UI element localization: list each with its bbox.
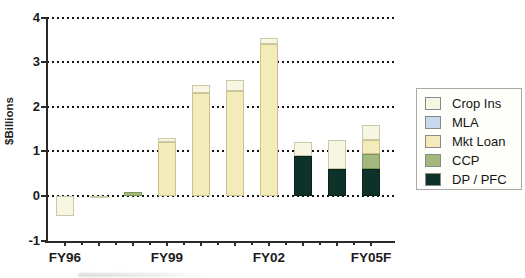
legend-swatch-ccp [425,154,441,167]
bar-FY96-crop_ins[interactable] [56,196,74,216]
legend-row-mla: MLA [425,113,521,132]
x-minor-tick [217,243,219,245]
legend-label-mla: MLA [452,115,479,130]
gridline-y3 [47,61,394,63]
legend-swatch-crop_ins [425,97,441,110]
gridline-y2 [47,106,394,108]
bar-FY04-crop_ins[interactable] [328,140,346,169]
bar-FY01-crop_ins[interactable] [226,80,244,91]
x-tick-FY02 [268,241,270,246]
legend-swatch-dp_pfc [425,173,441,186]
x-minor-tick [81,243,83,245]
x-tick-FY04 [336,241,338,246]
x-minor-tick [115,243,117,245]
y-axis-title: $Billions [3,66,15,176]
legend-swatch-mkt_loan [425,135,441,148]
legend-row-ccp: CCP [425,151,521,170]
x-tick-FY01 [234,241,236,246]
bar-FY03-crop_ins[interactable] [294,142,312,155]
legend-label-mkt_loan: Mkt Loan [452,134,505,149]
bar-FY98-ccp[interactable] [124,192,142,196]
bar-FY05F-ccp[interactable] [362,154,380,170]
legend-label-crop_ins: Crop Ins [452,96,501,111]
x-tick-FY03 [302,241,304,246]
x-tick-FY05F [370,241,372,246]
bar-FY05F-mkt_loan[interactable] [362,140,380,153]
x-minor-tick [319,243,321,245]
x-tick-FY96 [64,241,66,246]
bar-FY04-dp_pfc[interactable] [328,169,346,196]
legend-row-mkt_loan: Mkt Loan [425,132,521,151]
bar-FY99-mkt_loan[interactable] [158,142,176,196]
bar-FY99-crop_ins[interactable] [158,138,176,142]
x-tick-FY00 [200,241,202,246]
legend-row-dp_pfc: DP / PFC [425,170,521,189]
x-label-FY99: FY99 [143,250,191,265]
cropped-caption-smudge [78,273,208,277]
y-axis-line [46,18,48,243]
gridline-y4 [47,17,394,19]
bar-FY00-mkt_loan[interactable] [192,93,210,196]
legend-row-crop_ins: Crop Ins [425,94,521,113]
y-tick-label-2: 2 [14,100,40,114]
x-label-FY05F: FY05F [347,250,395,265]
legend: Crop InsMLAMkt LoanCCPDP / PFC [416,88,522,190]
legend-label-dp_pfc: DP / PFC [452,172,507,187]
x-minor-tick [285,243,287,245]
x-tick-FY97 [98,241,100,246]
bar-FY02-mkt_loan[interactable] [260,44,278,196]
bar-FY02-crop_ins[interactable] [260,38,278,45]
y-tick-label--1: -1 [14,234,40,248]
legend-swatch-mla [425,116,441,129]
x-minor-tick [149,243,151,245]
bar-FY00-crop_ins[interactable] [192,85,210,94]
bar-FY05F-crop_ins[interactable] [362,125,380,141]
bar-FY97-crop_ins[interactable] [90,196,108,198]
x-tick-FY98 [132,241,134,246]
x-label-FY02: FY02 [245,250,293,265]
y-tick-label-1: 1 [14,144,40,158]
bar-FY05F-dp_pfc[interactable] [362,169,380,196]
legend-label-ccp: CCP [452,153,479,168]
x-minor-tick [251,243,253,245]
y-tick-label-4: 4 [14,11,40,25]
x-minor-tick [353,243,355,245]
y-tick-label-0: 0 [14,189,40,203]
stacked-bar-chart: $Billions -101234FY96FY99FY02FY05F Crop … [0,0,525,278]
bar-FY03-dp_pfc[interactable] [294,156,312,196]
y-tick-label-3: 3 [14,55,40,69]
bar-FY01-mkt_loan[interactable] [226,91,244,196]
x-minor-tick [183,243,185,245]
x-tick-FY99 [166,241,168,246]
x-label-FY96: FY96 [41,250,89,265]
